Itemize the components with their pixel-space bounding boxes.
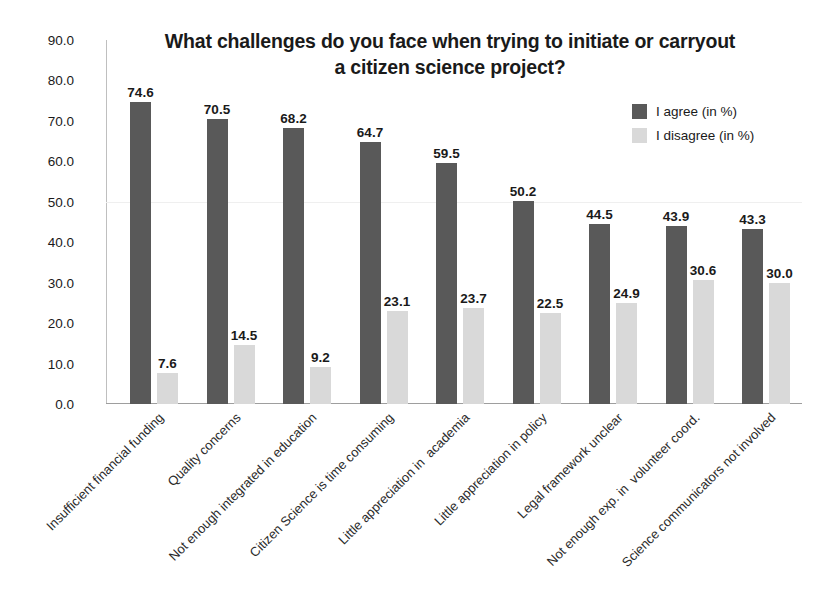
y-axis-tick-label: 20.0 (26, 316, 74, 331)
y-axis-tick-label: 60.0 (26, 154, 74, 169)
bar-group: 64.723.1 (360, 40, 408, 404)
bar-agree[interactable]: 43.3 (742, 229, 763, 404)
y-axis-tick-label: 0.0 (26, 397, 74, 412)
bar-value-label: 50.2 (510, 184, 536, 199)
x-axis-label: Citizen Science is time consuming (246, 410, 396, 560)
bar-value-label: 23.7 (460, 291, 486, 306)
x-axis-label: Not enough exp. in volunteer coord. (543, 410, 702, 569)
y-axis-tick-label: 30.0 (26, 275, 74, 290)
bar-agree[interactable]: 68.2 (283, 128, 304, 404)
y-axis-tick-label: 40.0 (26, 235, 74, 250)
x-axis-label: Little appreciation in academia (335, 410, 472, 547)
bar-value-label: 14.5 (231, 328, 257, 343)
x-axis-label: Quality concerns (164, 410, 243, 489)
bar-disagree[interactable]: 14.5 (234, 345, 255, 404)
bar-agree[interactable]: 74.6 (130, 102, 151, 404)
bar-group: 44.524.9 (589, 40, 637, 404)
bar-disagree[interactable]: 9.2 (310, 367, 331, 404)
bar-group: 74.67.6 (130, 40, 178, 404)
bar-value-label: 30.0 (766, 266, 792, 281)
bar-agree[interactable]: 64.7 (360, 142, 381, 404)
bar-agree[interactable]: 44.5 (589, 224, 610, 404)
bar-value-label: 30.6 (690, 263, 716, 278)
bar-agree[interactable]: 43.9 (666, 226, 687, 404)
bar-group: 68.29.2 (283, 40, 331, 404)
x-axis-label: Not enough integrated in education (166, 410, 320, 564)
bar-agree[interactable]: 59.5 (436, 163, 457, 404)
bar-value-label: 43.3 (739, 212, 765, 227)
bar-value-label: 44.5 (586, 207, 612, 222)
bar-value-label: 64.7 (357, 125, 383, 140)
bar-value-label: 74.6 (127, 85, 153, 100)
bar-disagree[interactable]: 23.7 (463, 308, 484, 404)
bar-group: 59.523.7 (436, 40, 484, 404)
plot-area: 0.010.020.030.040.050.060.070.080.090.07… (106, 40, 802, 404)
bar-disagree[interactable]: 30.0 (769, 283, 790, 404)
bar-agree[interactable]: 50.2 (513, 201, 534, 404)
bar-group: 43.930.6 (666, 40, 714, 404)
x-axis-label: Insufficient financial funding (43, 410, 166, 533)
x-axis-label: Science communicators not involved (619, 410, 779, 570)
bar-disagree[interactable]: 23.1 (387, 311, 408, 404)
bar-agree[interactable]: 70.5 (207, 119, 228, 404)
bar-disagree[interactable]: 22.5 (540, 313, 561, 404)
y-axis-tick-label: 70.0 (26, 113, 74, 128)
bar-disagree[interactable]: 30.6 (693, 280, 714, 404)
bar-value-label: 7.6 (158, 356, 177, 371)
y-axis-tick-label: 80.0 (26, 73, 74, 88)
bar-value-label: 70.5 (204, 102, 230, 117)
bar-value-label: 9.2 (311, 350, 330, 365)
bar-value-label: 24.9 (613, 286, 639, 301)
bar-group: 70.514.5 (207, 40, 255, 404)
bar-value-label: 68.2 (280, 111, 306, 126)
bar-disagree[interactable]: 7.6 (157, 373, 178, 404)
y-axis-tick-label: 10.0 (26, 356, 74, 371)
bar-disagree[interactable]: 24.9 (616, 303, 637, 404)
bar-value-label: 59.5 (433, 146, 459, 161)
y-axis-tick-label: 90.0 (26, 33, 74, 48)
bar-value-label: 23.1 (384, 294, 410, 309)
y-axis-line (106, 40, 107, 404)
bar-group: 43.330.0 (742, 40, 790, 404)
bar-value-label: 43.9 (663, 209, 689, 224)
bar-chart: What challenges do you face when trying … (0, 0, 821, 610)
y-axis-tick-label: 50.0 (26, 194, 74, 209)
bar-value-label: 22.5 (537, 296, 563, 311)
bar-group: 50.222.5 (513, 40, 561, 404)
